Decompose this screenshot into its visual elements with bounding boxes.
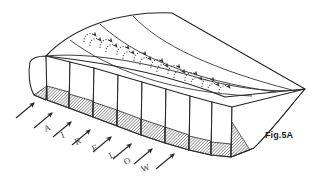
figure-container: A I R F L O W Fig.5A (0, 0, 319, 183)
cell-4 (117, 75, 142, 135)
cell-6 (165, 89, 190, 150)
airflow-arrow (134, 149, 152, 164)
figure-caption: Fig.5A (265, 130, 293, 140)
airflow-arrow (16, 103, 34, 118)
cell-5 (141, 82, 166, 143)
airflow-arrow (156, 154, 174, 169)
cell-1 (46, 56, 70, 108)
cell-7 (189, 96, 212, 155)
cell-cap-left (29, 56, 47, 100)
cellular-wing-diagram (0, 0, 319, 183)
cell-8 (211, 102, 232, 157)
cell-3 (93, 68, 118, 126)
cell-2 (69, 62, 94, 117)
